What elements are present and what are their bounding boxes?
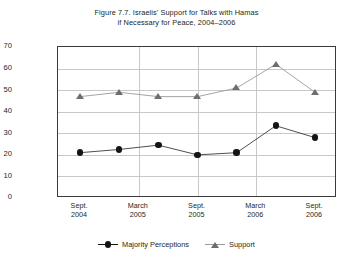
plot-area: [57, 46, 336, 197]
legend-item-majority-perceptions: Majority Perceptions: [98, 240, 189, 249]
x-tick-label-3: March2006: [225, 202, 285, 219]
x-tick-label-line2: 2006: [225, 211, 285, 220]
y-tick-label-60: 60: [0, 63, 12, 72]
y-tick-label-70: 70: [0, 41, 12, 50]
legend-marker-triangle-icon: [205, 240, 225, 249]
x-tick-label-1: March2005: [108, 202, 168, 219]
data-point-support-0: [76, 93, 84, 99]
x-tick-label-line2: 2005: [108, 211, 168, 220]
data-point-support-3: [193, 93, 201, 99]
x-tick-label-0: Sept.2004: [49, 202, 109, 219]
y-tick-label-0: 0: [0, 192, 12, 201]
x-tick-label-line2: 2005: [167, 211, 227, 220]
data-point-majority-perceptions-4: [233, 149, 240, 156]
data-point-majority-perceptions-1: [116, 146, 123, 153]
data-point-majority-perceptions-5: [273, 122, 280, 129]
data-point-support-2: [154, 93, 162, 99]
y-tick-label-50: 50: [0, 85, 12, 94]
figure-chart: Figure 7.7. Israelis' Support for Talks …: [0, 0, 353, 265]
y-tick-label-30: 30: [0, 128, 12, 137]
legend-label-support: Support: [229, 240, 255, 249]
x-tick-label-line2: 2006: [284, 211, 344, 220]
y-tick-label-20: 20: [0, 149, 12, 158]
chart-legend: Majority Perceptions Support: [0, 240, 353, 249]
y-tick-label-10: 10: [0, 171, 12, 180]
data-point-majority-perceptions-6: [312, 134, 319, 141]
y-tick-label-40: 40: [0, 106, 12, 115]
series-markers: [58, 47, 335, 196]
x-tick-label-2: Sept.2005: [167, 202, 227, 219]
data-point-support-4: [232, 84, 240, 90]
x-tick-label-4: Sept.2006: [284, 202, 344, 219]
legend-item-support: Support: [205, 240, 255, 249]
data-point-majority-perceptions-3: [194, 152, 201, 159]
data-point-support-5: [272, 61, 280, 67]
x-tick-label-line2: 2004: [49, 211, 109, 220]
legend-marker-circle-icon: [98, 240, 118, 249]
data-point-support-1: [115, 89, 123, 95]
legend-label-majority-perceptions: Majority Perceptions: [122, 240, 189, 249]
data-point-majority-perceptions-2: [155, 142, 162, 149]
data-point-majority-perceptions-0: [77, 149, 84, 156]
data-point-support-6: [311, 89, 319, 95]
